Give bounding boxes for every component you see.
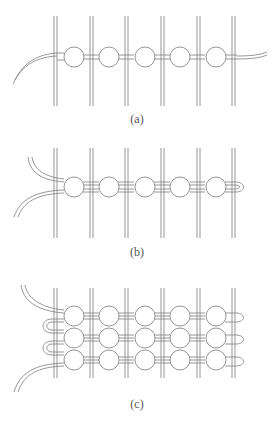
bead-weaving-diagram xyxy=(0,0,274,427)
beads-a xyxy=(64,47,226,67)
beads-b xyxy=(64,177,226,197)
panel-b xyxy=(14,148,244,238)
panel-a-label: (a) xyxy=(0,112,274,127)
panel-c-label: (c) xyxy=(0,397,274,412)
panel-a xyxy=(13,16,267,106)
panel-b-label: (b) xyxy=(0,245,274,260)
panel-c xyxy=(14,285,244,392)
